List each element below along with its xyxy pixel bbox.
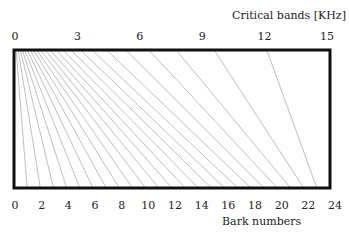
band-edge-line <box>33 50 119 188</box>
band-edge-line <box>176 50 290 188</box>
band-edge-line <box>214 50 304 188</box>
band-edge-line <box>56 50 185 188</box>
band-edge-line <box>126 50 265 188</box>
band-edge-line <box>71 50 212 188</box>
band-edge-line <box>25 50 80 188</box>
band-edge-line <box>107 50 251 188</box>
diagram-frame <box>14 50 330 188</box>
band-edge-line <box>267 50 317 188</box>
bark-mapping-diagram <box>0 0 349 244</box>
band-edge-line <box>37 50 133 188</box>
band-edge-line <box>149 50 278 188</box>
band-edge-line <box>92 50 238 188</box>
band-edge-line <box>41 50 146 188</box>
